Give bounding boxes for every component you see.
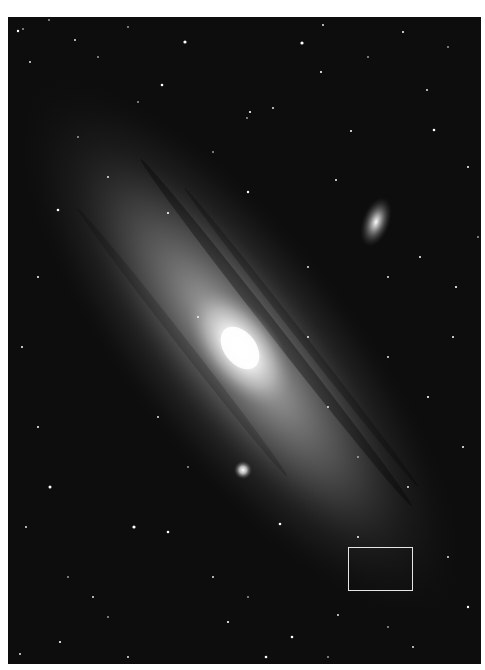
highlight-box: [348, 547, 413, 591]
